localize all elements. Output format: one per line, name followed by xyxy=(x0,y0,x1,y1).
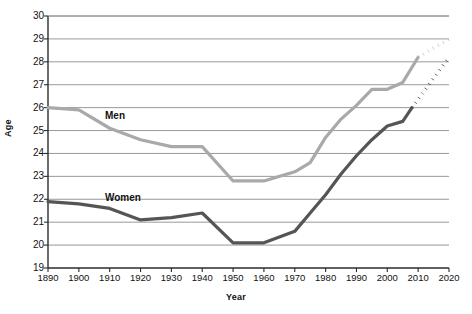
chart-plot-area xyxy=(0,0,472,314)
series-projection-men xyxy=(418,39,449,57)
age-at-first-marriage-chart: 192021222324252627282930 189019001910192… xyxy=(0,0,472,314)
y-tick-label: 24 xyxy=(18,148,44,158)
x-axis-title: Year xyxy=(0,292,472,302)
x-tick-label: 2020 xyxy=(438,273,459,283)
x-tick-label: 1970 xyxy=(284,273,305,283)
x-tick-label: 1990 xyxy=(346,273,367,283)
x-tick-label: 1940 xyxy=(192,273,213,283)
y-tick-label: 28 xyxy=(18,57,44,67)
y-tick-label: 23 xyxy=(18,171,44,181)
x-tick-label: 1900 xyxy=(68,273,89,283)
x-tick-label: 1920 xyxy=(130,273,151,283)
x-tick-label: 2000 xyxy=(377,273,398,283)
x-axis-tick-labels: 1890190019101920193019401950196019701980… xyxy=(0,273,472,291)
x-tick-label: 1910 xyxy=(99,273,120,283)
x-tick-label: 1890 xyxy=(37,273,58,283)
y-tick-label: 21 xyxy=(18,217,44,227)
y-axis-tick-labels: 192021222324252627282930 xyxy=(14,0,44,314)
y-tick-label: 29 xyxy=(18,34,44,44)
y-tick-label: 27 xyxy=(18,80,44,90)
y-tick-label: 26 xyxy=(18,103,44,113)
y-tick-label: 22 xyxy=(18,194,44,204)
y-tick-label: 30 xyxy=(18,11,44,21)
x-tick-label: 1950 xyxy=(222,273,243,283)
series-line-men xyxy=(48,57,418,181)
y-axis-title: Age xyxy=(3,119,13,137)
y-tick-label: 25 xyxy=(18,126,44,136)
y-tick-label: 20 xyxy=(18,240,44,250)
series-label-men: Men xyxy=(105,110,125,121)
x-tick-label: 1960 xyxy=(253,273,274,283)
x-tick-label: 2010 xyxy=(408,273,429,283)
x-tick-label: 1930 xyxy=(161,273,182,283)
series-label-women: Women xyxy=(105,192,141,203)
series-projection-women xyxy=(412,57,449,107)
x-tick-label: 1980 xyxy=(315,273,336,283)
